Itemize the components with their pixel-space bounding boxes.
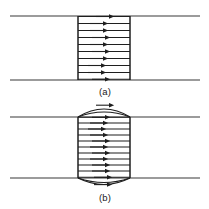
- panel-b-bottom-cap-arcs: [78, 178, 130, 185]
- panel-a-slab-outline: [78, 16, 130, 80]
- panel-a: (a): [10, 16, 200, 97]
- panel-a-caption: (a): [99, 86, 111, 97]
- bottom-cap-outer-arc: [78, 178, 130, 185]
- panel-b-top-cap-arcs: [78, 105, 130, 117]
- panel-a-field-lines: [78, 17, 130, 80]
- physics-field-diagram: (a): [0, 0, 209, 209]
- panel-b-field-lines: [78, 117, 130, 177]
- diagram-canvas: (a): [0, 0, 209, 209]
- panel-a-boundary-lines: [10, 16, 200, 80]
- panel-b: (b): [10, 105, 200, 203]
- top-cap-outer-arc: [78, 109, 130, 117]
- panel-b-caption: (b): [99, 192, 111, 203]
